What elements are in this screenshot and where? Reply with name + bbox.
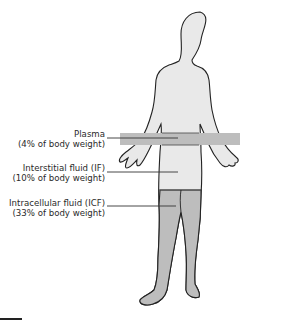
icf-detail: (33% of body weight) [9, 208, 105, 218]
body-diagram [0, 0, 291, 323]
label-plasma: Plasma (4% of body weight) [18, 129, 105, 149]
label-intracellular-fluid: Intracellular fluid (ICF) (33% of body w… [9, 198, 105, 218]
icf-name: Intracellular fluid (ICF) [9, 198, 105, 208]
plasma-name: Plasma [18, 129, 105, 139]
plasma-detail: (4% of body weight) [18, 139, 105, 149]
label-interstitial-fluid: Interstitial fluid (IF) (10% of body wei… [12, 163, 105, 183]
if-detail: (10% of body weight) [12, 173, 105, 183]
if-name: Interstitial fluid (IF) [12, 163, 105, 173]
